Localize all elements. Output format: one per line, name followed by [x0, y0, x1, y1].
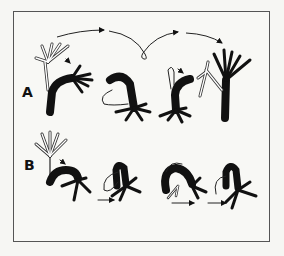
hydra-b1 [36, 132, 90, 200]
hydra-b3 [165, 163, 206, 203]
hydra-a1 [36, 44, 92, 112]
hydra-b2 [98, 165, 140, 200]
hydra-a3 [160, 67, 190, 122]
hydra-a4 [198, 50, 250, 118]
hydra-a2 [102, 77, 150, 120]
sequence-arrows-a [57, 30, 222, 59]
hydra-b4 [208, 166, 256, 208]
diagram-drawing [0, 0, 284, 256]
